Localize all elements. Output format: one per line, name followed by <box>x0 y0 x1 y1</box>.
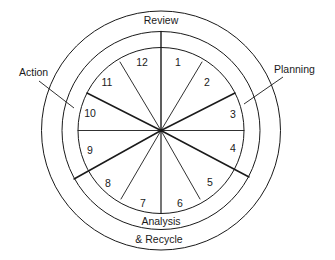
segment-number-11: 11 <box>102 76 113 88</box>
segment-number-4: 4 <box>230 142 236 154</box>
segment-number-6: 6 <box>177 197 183 209</box>
spoke-7-8 <box>121 131 161 200</box>
segment-number-8: 8 <box>105 177 111 189</box>
phase-label-recycle: & Recycle <box>135 233 182 245</box>
phase-label-analysis: Analysis <box>141 215 180 227</box>
segment-number-5: 5 <box>207 176 213 188</box>
phase-label-review: Review <box>144 14 179 26</box>
segment-number-2: 2 <box>204 76 210 88</box>
segment-number-10: 10 <box>84 107 96 119</box>
segment-number-7: 7 <box>140 197 146 209</box>
cycle-diagram: 1 2 3 4 5 6 7 8 9 10 11 12 Review Planni… <box>0 0 335 260</box>
segment-number-9: 9 <box>87 144 93 156</box>
segment-number-12: 12 <box>136 56 148 68</box>
segment-number-3: 3 <box>230 108 236 120</box>
segment-number-1: 1 <box>175 56 181 68</box>
planning-leader-line <box>244 77 283 104</box>
phase-label-action: Action <box>19 66 48 78</box>
phase-label-planning: Planning <box>274 63 315 75</box>
